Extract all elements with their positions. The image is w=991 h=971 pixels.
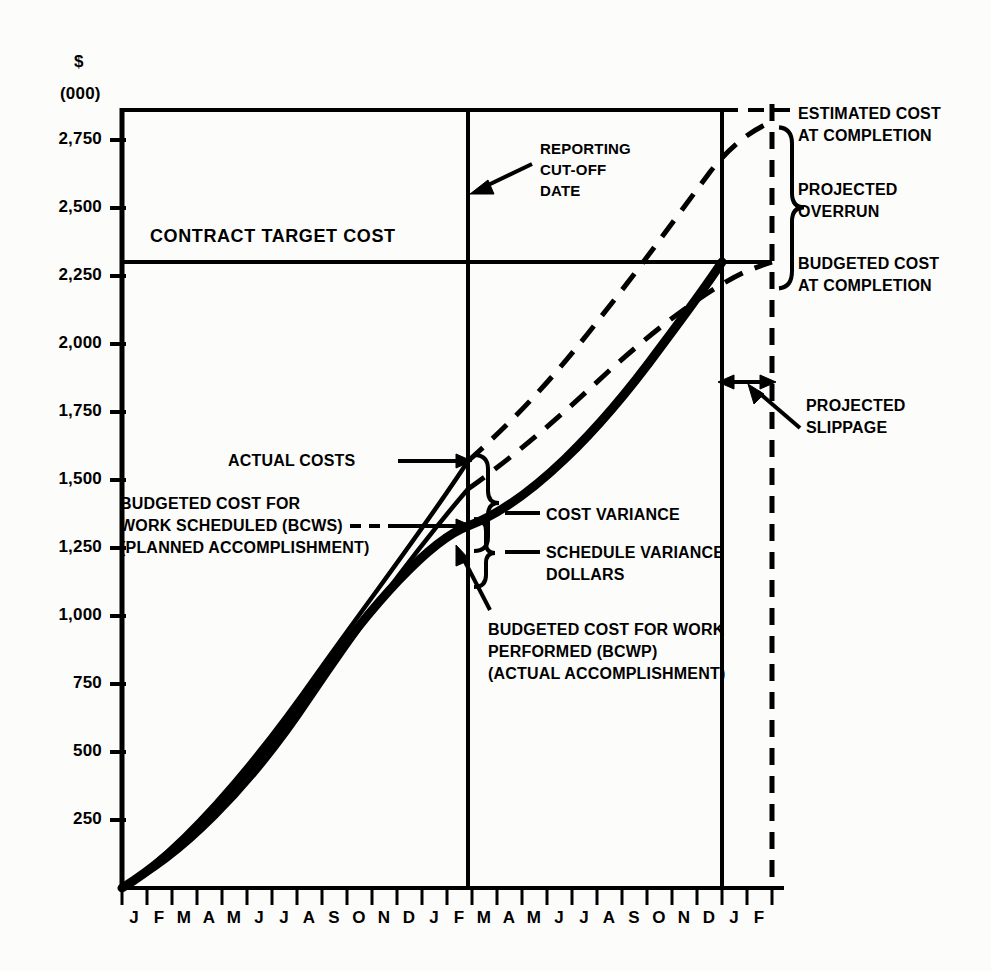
x-tick-label: M	[523, 908, 545, 929]
schedule-variance-brace	[474, 519, 495, 587]
y-tick-label: 2,000	[6, 333, 102, 354]
x-tick-label: F	[448, 908, 470, 929]
y-tick-label: 1,250	[6, 537, 102, 558]
bcws-label-line1: BUDGETED COST FOR	[120, 494, 300, 514]
x-tick-label: A	[598, 908, 620, 929]
x-tick-label: O	[648, 908, 670, 929]
bcws-curve	[122, 262, 722, 888]
x-tick-label: J	[573, 908, 595, 929]
axis-unit-scale: (000)	[60, 84, 101, 105]
projected-slippage-label-line2: SLIPPAGE	[806, 418, 887, 438]
reporting-cutoff-arrow	[470, 164, 532, 194]
bcws-label-line3: (PLANNED ACCOMPLISHMENT)	[120, 538, 370, 558]
x-tick-label: A	[498, 908, 520, 929]
reporting-cutoff-label-line2: CUT-OFF	[540, 161, 606, 179]
x-tick-label: J	[248, 908, 270, 929]
budgeted-cost-label-line2: AT COMPLETION	[798, 276, 932, 296]
x-tick-label: M	[473, 908, 495, 929]
projected-overrun-label-line2: OVERRUN	[798, 202, 879, 222]
y-tick-label: 1,750	[6, 401, 102, 422]
x-tick-label: J	[123, 908, 145, 929]
x-tick-label: A	[298, 908, 320, 929]
bcwp-label-line1: BUDGETED COST FOR WORK	[488, 620, 724, 640]
x-tick-label: J	[548, 908, 570, 929]
bcwp-label-line2: PERFORMED (BCWP)	[488, 642, 657, 662]
y-tick-label: 1,000	[6, 605, 102, 626]
chart-canvas: $ (000) 2,750 2,500 2,250 2,000 1,750 1,…	[0, 0, 991, 971]
reporting-cutoff-label-line3: DATE	[540, 182, 581, 200]
projected-slippage-label-line1: PROJECTED	[806, 396, 906, 416]
x-axis-ticks	[122, 888, 772, 905]
estimated-cost-label-line2: AT COMPLETION	[798, 126, 932, 146]
x-tick-label: N	[373, 908, 395, 929]
y-tick-label: 1,500	[6, 469, 102, 490]
x-tick-label: J	[723, 908, 745, 929]
x-tick-label: F	[148, 908, 170, 929]
y-tick-label: 750	[6, 673, 102, 694]
estimated-cost-label-line1: ESTIMATED COST	[798, 104, 941, 124]
x-tick-label: A	[198, 908, 220, 929]
reporting-cutoff-label-line1: REPORTING	[540, 140, 631, 158]
x-tick-label: O	[348, 908, 370, 929]
x-tick-label: S	[623, 908, 645, 929]
x-tick-label: M	[173, 908, 195, 929]
budgeted-cost-label-line1: BUDGETED COST	[798, 254, 939, 274]
actual-costs-arrow	[398, 454, 472, 468]
x-tick-label: J	[273, 908, 295, 929]
projected-slippage-arrow	[718, 375, 776, 389]
schedule-variance-label-line2: DOLLARS	[546, 565, 625, 585]
axis-unit-symbol: $	[74, 52, 84, 73]
y-tick-label: 250	[6, 809, 102, 830]
y-tick-label: 2,750	[6, 129, 102, 150]
cost-variance-label: COST VARIANCE	[546, 505, 680, 525]
bcws-label-line2: WORK SCHEDULED (BCWS)	[120, 516, 343, 536]
schedule-variance-label-line1: SCHEDULE VARIANCE	[546, 543, 724, 563]
projected-overrun-label-line1: PROJECTED	[798, 180, 898, 200]
contract-target-cost-label: CONTRACT TARGET COST	[150, 226, 396, 248]
y-tick-label: 2,250	[6, 265, 102, 286]
projected-bcwp-curve	[468, 262, 772, 489]
actual-costs-label: ACTUAL COSTS	[228, 451, 355, 471]
x-tick-label: J	[423, 908, 445, 929]
x-tick-label: F	[748, 908, 770, 929]
x-tick-label: D	[698, 908, 720, 929]
bcwp-label-line3: (ACTUAL ACCOMPLISHMENT)	[488, 664, 725, 684]
evm-chart-svg	[0, 0, 991, 971]
y-tick-label: 500	[6, 741, 102, 762]
x-tick-label: N	[673, 908, 695, 929]
x-tick-label: D	[398, 908, 420, 929]
x-tick-label: S	[323, 908, 345, 929]
x-tick-label: M	[223, 908, 245, 929]
y-tick-label: 2,500	[6, 197, 102, 218]
